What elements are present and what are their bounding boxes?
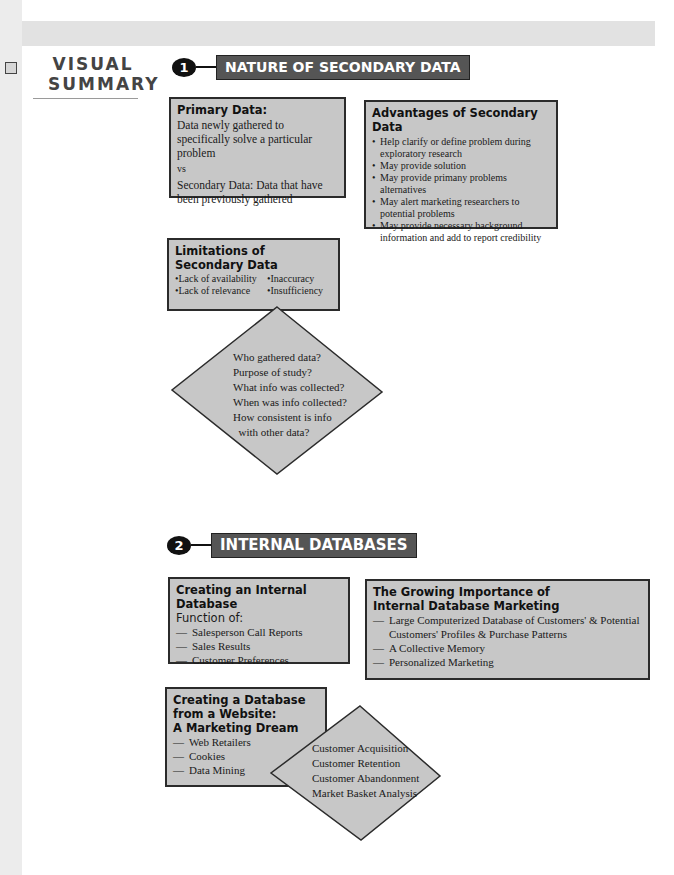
question-line: with other data?	[233, 425, 347, 440]
section-heading: INTERNAL DATABASES	[211, 533, 417, 558]
section-1-header: 1 NATURE OF SECONDARY DATA	[172, 54, 470, 80]
list-item: Large Computerized Database of Customers…	[373, 613, 642, 641]
metric-line: Customer Acquisition	[312, 741, 419, 756]
connector-line	[196, 66, 216, 68]
question-line: Who gathered data?	[233, 350, 347, 365]
secondary-definition: Secondary Data: Data that have been prev…	[177, 178, 338, 206]
questions-diamond-text: Who gathered data? Purpose of study? Wha…	[233, 350, 347, 440]
section-number-badge: 2	[167, 536, 191, 555]
box-title: The Growing Importance of	[373, 585, 642, 599]
growing-importance-list: Large Computerized Database of Customers…	[373, 613, 642, 669]
list-item: A Collective Memory	[373, 641, 642, 655]
growing-importance-box: The Growing Importance of Internal Datab…	[365, 579, 650, 680]
box-subtitle: Function of:	[176, 611, 342, 625]
question-line: When was info collected?	[233, 395, 347, 410]
primary-data-box: Primary Data: Data newly gathered to spe…	[169, 97, 346, 198]
box-title: Advantages of Secondary Data	[372, 106, 550, 134]
advantages-list: Help clarify or define problem during ex…	[372, 136, 550, 244]
section-number-badge: 1	[172, 58, 196, 77]
list-item: May alert marketing researchers to poten…	[372, 196, 550, 220]
question-line: How consistent is info	[233, 410, 347, 425]
list-item: May provide primany problems alternative…	[372, 172, 550, 196]
left-margin-strip	[0, 0, 22, 875]
customer-metrics-diamond-text: Customer Acquisition Customer Retention …	[312, 741, 419, 801]
list-item: Insufficiency	[267, 285, 337, 297]
metric-line: Customer Retention	[312, 756, 419, 771]
list-item: Inaccuracy	[267, 273, 337, 285]
visual-summary-title: VISUAL SUMMARY	[48, 54, 138, 94]
list-item: May provide necessary background informa…	[372, 220, 550, 244]
metric-line: Market Basket Analysis	[312, 786, 419, 801]
box-title: Internal Database Marketing	[373, 599, 642, 613]
section-heading: NATURE OF SECONDARY DATA	[216, 55, 470, 80]
title-divider	[33, 98, 138, 99]
box-title: Secondary Data	[175, 258, 332, 272]
list-item: Lack of availability	[175, 273, 267, 285]
title-line-2: SUMMARY	[48, 74, 138, 94]
section-2-header: 2 INTERNAL DATABASES	[167, 532, 417, 558]
internal-database-box: Creating an Internal Database Function o…	[168, 577, 350, 664]
list-item: Help clarify or define problem during ex…	[372, 136, 550, 160]
list-item: Lack of relevance	[175, 285, 267, 297]
primary-definition: Data newly gathered to specifically solv…	[177, 118, 338, 160]
question-line: What info was collected?	[233, 380, 347, 395]
metric-line: Customer Abandonment	[312, 771, 419, 786]
connector-line	[191, 544, 211, 546]
list-item: May provide solution	[372, 160, 550, 172]
question-line: Purpose of study?	[233, 365, 347, 380]
box-title: Primary Data:	[177, 103, 338, 117]
list-item: Salesperson Call Reports	[176, 625, 342, 639]
limitations-list: Lack of availability Inaccuracy Lack of …	[175, 273, 332, 297]
list-item: Personalized Marketing	[373, 655, 642, 669]
list-item: Sales Results	[176, 639, 342, 653]
list-item: Customer Preferences	[176, 653, 342, 667]
title-line-1: VISUAL	[48, 54, 138, 74]
checkbox-square-icon	[5, 62, 17, 74]
advantages-box: Advantages of Secondary Data Help clarif…	[364, 100, 558, 229]
limitations-box: Limitations of Secondary Data Lack of av…	[167, 238, 340, 311]
top-header-band	[22, 21, 655, 46]
versus-text: vs	[177, 162, 338, 176]
box-title: Limitations of	[175, 244, 332, 258]
box-title: Creating an Internal Database	[176, 583, 342, 611]
internal-database-list: Salesperson Call Reports Sales Results C…	[176, 625, 342, 667]
